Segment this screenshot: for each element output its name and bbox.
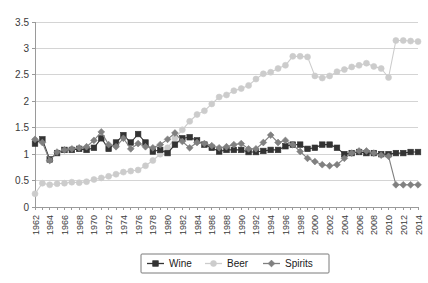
data-point-marker [311,158,318,165]
data-point-marker [319,161,326,168]
x-axis-tick-label: 1996 [281,215,291,235]
data-point-marker [386,75,392,81]
y-axis-tick-label: 0.5 [15,175,29,186]
legend-label: Wine [169,258,192,269]
series-spirits [32,129,422,189]
data-point-marker [305,146,311,152]
data-point-marker [128,168,134,174]
chart-container: 00.511.522.533.5 19621964196619681970197… [0,0,428,283]
data-point-marker [407,181,414,188]
data-point-marker [238,86,244,92]
data-point-marker [408,38,414,44]
x-axis-tick-label: 2012 [399,215,409,235]
data-point-marker [165,150,171,156]
x-axis-tick-label: 1964 [45,215,55,235]
x-axis-tick-label: 1968 [75,215,85,235]
data-point-marker [47,182,53,188]
data-point-marker [319,75,325,81]
data-point-marker [275,147,281,153]
data-point-marker [246,82,252,88]
x-axis-tick-label: 1984 [193,215,203,235]
data-point-marker [106,173,112,179]
data-point-marker [216,94,222,100]
data-point-marker [209,101,215,107]
data-point-marker [98,175,104,181]
data-point-marker [268,69,274,75]
x-axis-tick-label: 1982 [178,215,188,235]
y-axis-tick-label: 1 [23,149,29,160]
data-point-marker [128,140,134,146]
data-point-marker [349,64,355,70]
x-axis-tick-label: 1970 [89,215,99,235]
data-point-marker [91,145,97,151]
x-axis-tick-label: 1976 [134,215,144,235]
x-axis-tick-label: 1992 [251,215,261,235]
x-axis-tick-label: 2014 [414,215,424,235]
data-point-marker [179,127,185,133]
x-axis-tick-label: 1966 [60,215,70,235]
data-point-marker [408,149,414,155]
x-axis-tick-label: 1998 [296,215,306,235]
data-point-marker [91,177,97,183]
x-axis-tick-label: 2000 [310,215,320,235]
data-point-marker [283,143,289,149]
data-point-marker [61,180,67,186]
data-point-marker [211,261,217,267]
data-point-marker [400,38,406,44]
x-axis-tick-label: 1978 [148,215,158,235]
data-point-marker [172,142,178,148]
data-point-marker [415,149,421,155]
data-point-marker [282,137,289,144]
x-axis-tick-label: 1990 [237,215,247,235]
data-point-marker [32,191,38,197]
data-point-marker [84,179,90,185]
data-point-marker [69,179,75,185]
x-axis-tick-label: 1972 [104,215,114,235]
data-point-marker [334,69,340,75]
data-point-marker [393,181,400,188]
y-axis-tick-label: 0 [23,202,29,213]
data-point-marker [54,181,60,187]
data-point-marker [356,62,362,68]
data-point-marker [187,118,193,124]
data-point-marker [400,181,407,188]
data-point-marker [312,145,318,151]
y-axis-tick-label: 1.5 [15,122,29,133]
data-point-marker [393,38,399,44]
data-point-marker [327,73,333,79]
x-axis-tick-label: 1980 [163,215,173,235]
data-point-marker [194,112,200,118]
data-point-marker [305,54,311,60]
data-point-marker [150,157,156,163]
data-point-marker [312,73,318,79]
y-axis-tick-label: 3.5 [15,17,29,28]
y-axis-tick-label: 3 [23,43,29,54]
data-point-marker [187,134,193,140]
data-point-marker [238,147,244,153]
data-point-marker [135,167,141,173]
data-point-marker [153,261,159,267]
y-axis: 00.511.522.533.5 [15,17,35,213]
data-point-marker [268,147,274,153]
data-point-marker [319,142,325,148]
data-point-marker [415,181,422,188]
x-axis-tick-label: 1974 [119,215,129,235]
x-axis-tick-label: 1988 [222,215,232,235]
data-point-marker [297,142,303,148]
data-point-marker [400,150,406,156]
data-point-marker [378,66,384,72]
data-point-marker [327,142,333,148]
data-point-marker [135,131,141,137]
data-point-marker [201,108,207,114]
data-point-marker [326,162,333,169]
line-chart: 00.511.522.533.5 19621964196619681970197… [0,0,428,283]
data-point-marker [290,53,296,59]
data-point-marker [393,150,399,156]
data-point-marker [297,53,303,59]
data-point-marker [142,163,148,169]
legend-label: Spirits [285,258,313,269]
data-point-marker [113,171,119,177]
y-axis-tick-label: 2.5 [15,69,29,80]
x-axis-tick-label: 1994 [266,215,276,235]
data-point-marker [39,180,45,186]
